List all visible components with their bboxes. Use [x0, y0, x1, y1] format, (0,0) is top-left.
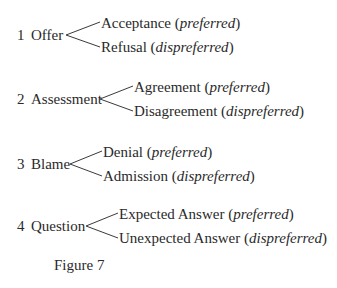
row-1-branch-2: Refusal (dispreferred)	[101, 40, 234, 55]
row-3-number: 3	[17, 157, 25, 172]
row-3-branch-2: Admission (dispreferred)	[103, 169, 255, 184]
row-3-label: Blame	[31, 157, 70, 172]
row-4-branch-2: Unexpected Answer (dispreferred)	[119, 231, 327, 246]
row-2-branch-1: Agreement (preferred)	[134, 80, 270, 95]
row-3-branch-1: Denial (preferred)	[103, 145, 212, 160]
row-2-label: Assessment	[31, 92, 102, 107]
row-4-branch-1: Expected Answer (preferred)	[119, 207, 294, 222]
figure-caption: Figure 7	[54, 258, 104, 273]
row-1-label: Offer	[31, 28, 63, 43]
row-2-number: 2	[17, 92, 25, 107]
row-1-number: 1	[17, 28, 25, 43]
row-4-label: Question	[31, 219, 85, 234]
row-2-branch-2: Disagreement (dispreferred)	[134, 104, 304, 119]
row-4-number: 4	[17, 219, 25, 234]
row-1-branch-1: Acceptance (preferred)	[101, 16, 240, 31]
